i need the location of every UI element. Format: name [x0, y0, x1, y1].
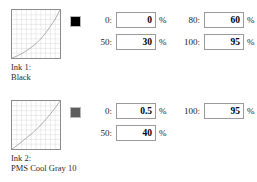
ink-1-field-unit-80: % — [247, 15, 255, 25]
ink-2-field-row-0: 0: 0.5 % — [92, 102, 167, 120]
ink-1-field-key-100: 100: — [176, 37, 200, 47]
ink-1-field-row-0: 0: 0 % — [92, 11, 167, 29]
ink-2-field-unit-0: % — [159, 106, 167, 116]
ink-2-label-line2: PMS Cool Gray 10 — [11, 164, 76, 174]
ink-2-label: Ink 2: PMS Cool Gray 10 — [11, 154, 76, 173]
ink-1-field-key-80: 80: — [176, 15, 200, 25]
tone-curve-thumbnail-ink-1[interactable] — [11, 9, 61, 59]
ink-2-field-key-50: 50: — [92, 128, 112, 138]
tone-curve-thumbnail-ink-2[interactable] — [11, 100, 61, 150]
ink-2-field-input-100[interactable]: 95 — [204, 103, 244, 119]
ink-1-field-unit-50: % — [159, 37, 167, 47]
ink-1-fields-left-column: 0: 0 % 50: 30 % — [92, 11, 167, 55]
ink-2-field-key-0: 0: — [92, 106, 112, 116]
ink-1-field-input-100[interactable]: 95 — [204, 34, 244, 50]
ink-1-label: Ink 1: Black — [11, 63, 31, 82]
curve-grid-ink-2 — [12, 101, 60, 149]
ink-1-field-row-100: 100: 95 % — [176, 33, 255, 51]
ink-2-fields-left-column: 0: 0.5 % 50: 40 % — [92, 102, 167, 146]
ink-1-field-key-50: 50: — [92, 37, 112, 47]
ink-1-fields-right-column: 80: 60 % 100: 95 % — [176, 11, 255, 55]
ink-2-field-input-50[interactable]: 40 — [116, 125, 156, 141]
ink-2-field-unit-100: % — [247, 106, 255, 116]
ink-1-color-swatch[interactable] — [70, 16, 81, 27]
ink-2-field-row-50: 50: 40 % — [92, 124, 167, 142]
ink-1-label-line2: Black — [11, 73, 31, 83]
ink-2-color-swatch[interactable] — [70, 107, 81, 118]
ink-1-field-input-50[interactable]: 30 — [116, 34, 156, 50]
tone-curve-graph-ink-2[interactable] — [11, 100, 61, 150]
ink-1-field-unit-100: % — [247, 37, 255, 47]
ink-section-2: Ink 2: PMS Cool Gray 10 0: 0.5 % 50: 40 … — [0, 91, 257, 182]
curve-grid-ink-1 — [12, 10, 60, 58]
ink-1-field-input-0[interactable]: 0 — [116, 12, 156, 28]
ink-2-field-row-100: 100: 95 % — [176, 102, 255, 120]
ink-section-1: Ink 1: Black 0: 0 % 50: 30 % 80: 60 % 10… — [0, 0, 257, 91]
ink-2-field-key-100: 100: — [176, 106, 200, 116]
ink-2-field-input-0[interactable]: 0.5 — [116, 103, 156, 119]
ink-1-field-row-80: 80: 60 % — [176, 11, 255, 29]
ink-1-field-input-80[interactable]: 60 — [204, 12, 244, 28]
ink-2-fields-right-column: 100: 95 % — [176, 102, 255, 124]
ink-2-field-unit-50: % — [159, 128, 167, 138]
ink-1-field-unit-0: % — [159, 15, 167, 25]
ink-1-field-row-50: 50: 30 % — [92, 33, 167, 51]
ink-1-field-key-0: 0: — [92, 15, 112, 25]
tone-curve-graph-ink-1[interactable] — [11, 9, 61, 59]
